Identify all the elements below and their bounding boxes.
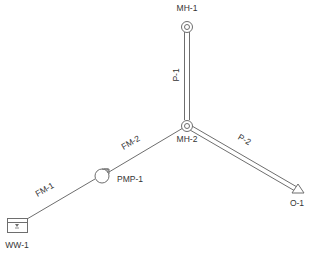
network-diagram: MH-1 MH-2 PMP-1 WW-1 O-1 P-1 P-2 FM-1 FM… — [0, 0, 312, 258]
manhole-icon[interactable] — [182, 22, 193, 33]
force-main-fm-2[interactable] — [109, 128, 183, 172]
manhole-icon[interactable] — [182, 121, 193, 132]
force-main-fm-1[interactable] — [27, 179, 95, 219]
pump-icon[interactable] — [95, 169, 109, 183]
node-label-mh-1: MH-1 — [177, 3, 198, 13]
node-label-pmp-1: PMP-1 — [117, 174, 143, 184]
link-label-p-1: P-1 — [171, 68, 181, 82]
node-label-ww-1: WW-1 — [5, 240, 29, 250]
link-label-fm-1: FM-1 — [33, 180, 55, 199]
node-label-mh-2: MH-2 — [177, 134, 198, 144]
wet-well-icon[interactable] — [8, 219, 28, 233]
gravity-pipe-p-1[interactable] — [185, 32, 190, 120]
link-label-fm-2: FM-2 — [119, 133, 141, 152]
node-label-o-1: O-1 — [290, 198, 304, 208]
link-label-p-2: P-2 — [236, 132, 253, 147]
